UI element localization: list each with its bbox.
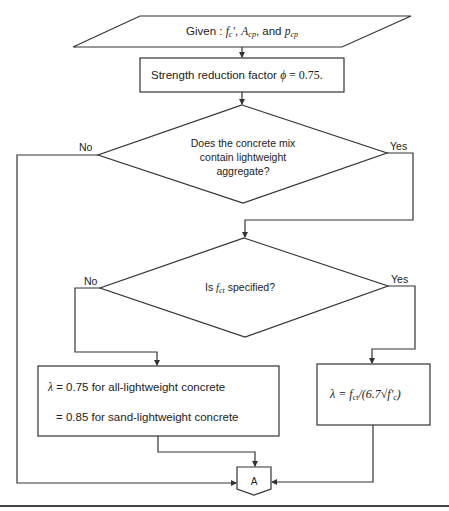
fct-var: fct	[216, 282, 225, 293]
decision1-yes-label: Yes	[390, 140, 407, 153]
lambda-lightweight-line2: = 0.85 for sand-lightweight concrete	[56, 411, 239, 424]
decision1-text: Does the concrete mix contain lightweigh…	[172, 136, 314, 178]
step1-text: Strength reduction factor ϕ = 0.75.	[151, 69, 323, 82]
left-box-to-connector	[158, 436, 255, 466]
input-var-pcp: pcp	[285, 25, 298, 37]
decision2-text: Is fct specified?	[205, 281, 275, 297]
right-box-to-connector	[272, 425, 373, 482]
decision2-yes-path	[372, 286, 415, 363]
lambda-lightweight-line1: λ = 0.75 for all-lightweight concrete	[48, 381, 225, 394]
input-prefix: Given :	[186, 25, 226, 37]
connector-label: A	[237, 475, 271, 488]
decision2-no-label: No	[84, 275, 97, 288]
lambda-lightweight-box	[38, 366, 279, 436]
decision2-yes-label: Yes	[391, 273, 408, 286]
lambda-fct-formula: λ = fct/(6.7√f′c)	[330, 388, 401, 404]
input-var-acp: Acp	[241, 25, 256, 37]
input-text: Given : fc′, Acp, and pcp	[186, 25, 298, 41]
input-var-fc: fc′	[226, 25, 235, 37]
decision1-no-label: No	[79, 141, 92, 154]
